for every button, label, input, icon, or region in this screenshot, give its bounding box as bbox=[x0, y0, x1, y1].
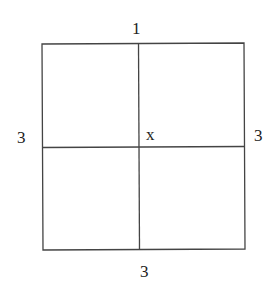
label-center: x bbox=[146, 125, 155, 144]
label-right: 3 bbox=[254, 126, 263, 145]
horizontal-divider bbox=[43, 147, 246, 148]
label-bottom: 3 bbox=[140, 262, 149, 281]
label-top: 1 bbox=[132, 19, 141, 38]
grid-diagram: 1 3 x 3 3 bbox=[0, 0, 276, 294]
label-left: 3 bbox=[17, 128, 26, 147]
